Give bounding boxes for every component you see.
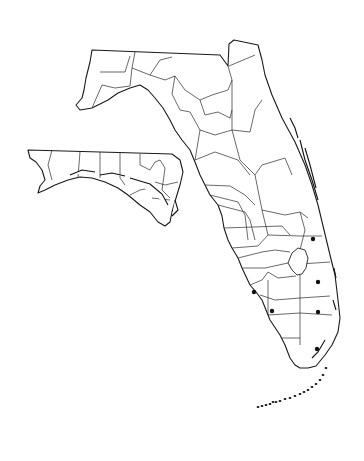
key-island <box>269 403 272 405</box>
occurrence-dot <box>311 237 315 241</box>
key-island <box>315 383 318 385</box>
key-island <box>265 404 268 406</box>
panhandle-section <box>28 150 183 226</box>
florida-keys <box>257 367 328 408</box>
key-island <box>303 391 306 393</box>
key-island <box>261 405 264 407</box>
key-island <box>257 406 260 408</box>
occurrence-dot <box>270 309 274 313</box>
key-island <box>284 398 287 400</box>
occurrence-dot <box>316 310 320 314</box>
key-island <box>272 401 275 403</box>
key-island <box>299 393 302 395</box>
occurrence-dot <box>316 280 320 284</box>
key-island <box>275 401 278 403</box>
key-island <box>279 400 282 402</box>
mainland-outline <box>76 40 340 368</box>
key-island <box>294 395 297 397</box>
key-island <box>319 379 322 381</box>
occurrence-dot <box>315 347 319 351</box>
key-island <box>322 374 325 376</box>
florida-county-map <box>0 0 364 461</box>
key-island <box>307 389 310 391</box>
panhandle-outline <box>28 150 183 226</box>
key-island <box>289 397 292 399</box>
mainland-section <box>76 40 340 368</box>
key-island <box>311 386 314 388</box>
key-island <box>325 367 328 369</box>
occurrence-dot <box>252 290 256 294</box>
